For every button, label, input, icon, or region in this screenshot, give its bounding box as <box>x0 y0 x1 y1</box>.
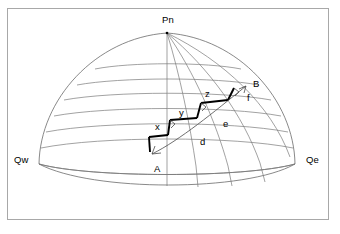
label-segment-e: e <box>223 119 228 129</box>
path-segment-e <box>197 103 201 118</box>
pole-point-marker <box>166 32 169 35</box>
sphere-limb-left <box>39 33 167 164</box>
meridian-e3-lower <box>260 163 265 182</box>
label-segment-z: z <box>205 89 210 99</box>
label-segment-f: f <box>247 93 250 103</box>
label-segment-d: d <box>200 137 205 147</box>
meridian-e1 <box>167 33 196 166</box>
meridian-e2 <box>167 33 228 166</box>
parallel-3 <box>64 93 271 100</box>
meridian-e1-lower <box>196 166 198 187</box>
direct-line-ab-stroke <box>152 86 246 154</box>
meridian-e2-lower <box>228 166 232 186</box>
label-segment-x: x <box>155 122 160 132</box>
label-point-b: B <box>253 79 260 89</box>
direct-line-ab <box>152 86 246 154</box>
label-quadrant-east: Qe <box>306 155 319 165</box>
globe-graticule-drawing <box>0 0 340 234</box>
label-point-a: A <box>154 164 161 174</box>
figure-container: Pn Qw Qe A B x y z d e f <box>0 0 340 234</box>
parallel-4 <box>54 109 281 117</box>
label-segment-y: y <box>179 108 184 118</box>
path-segment-d <box>168 120 170 135</box>
staircase-path <box>149 88 234 152</box>
path-segment-x <box>149 135 168 137</box>
parallel-1 <box>95 64 241 69</box>
path-segment-y <box>170 118 197 120</box>
parallel-2 <box>77 79 259 85</box>
path-segment-a-drop <box>149 137 150 152</box>
label-pole-north: Pn <box>162 15 174 25</box>
label-quadrant-west: Qw <box>14 155 29 165</box>
right-angle-mark-e <box>201 103 206 111</box>
